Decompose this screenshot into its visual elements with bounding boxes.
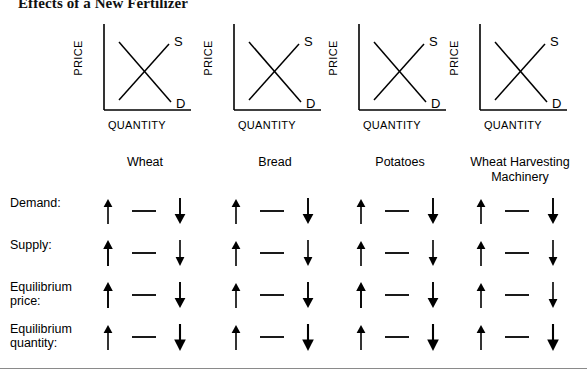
dash-icon[interactable] (384, 238, 410, 268)
column-caption-line2: Machinery (450, 170, 587, 185)
up-arrow-icon[interactable] (348, 280, 374, 310)
answer-cell-equilibrium-quantity-machinery (468, 322, 584, 356)
down-arrow-icon[interactable] (167, 196, 193, 226)
graph-x-axis-label: QUANTITY (458, 119, 568, 131)
graph-plot-area: S D (225, 22, 322, 118)
row-label-supply: Supply: (10, 238, 98, 252)
svg-text:D: D (552, 96, 561, 111)
answer-cell-equilibrium-quantity-potatoes (348, 322, 464, 356)
row-label-line1: Equilibrium (10, 280, 98, 294)
dash-icon[interactable] (504, 322, 530, 352)
dash-icon[interactable] (259, 196, 285, 226)
down-arrow-icon[interactable] (540, 238, 566, 268)
dash-icon[interactable] (384, 196, 410, 226)
up-arrow-icon[interactable] (95, 322, 121, 352)
row-label-demand: Demand: (10, 196, 98, 210)
dash-icon[interactable] (504, 280, 530, 310)
graph-y-axis-label: PRICE (72, 28, 84, 88)
down-arrow-icon[interactable] (420, 280, 446, 310)
answer-cell-supply-potatoes (348, 238, 464, 272)
down-arrow-icon[interactable] (420, 322, 446, 352)
row-label-line1: Demand: (10, 196, 98, 210)
answer-cell-supply-wheat (95, 238, 211, 272)
up-arrow-icon[interactable] (468, 196, 494, 226)
up-arrow-icon[interactable] (223, 322, 249, 352)
up-arrow-icon[interactable] (468, 280, 494, 310)
graph-x-axis-label: QUANTITY (82, 119, 192, 131)
down-arrow-icon[interactable] (295, 196, 321, 226)
dash-icon[interactable] (259, 322, 285, 352)
down-arrow-icon[interactable] (420, 196, 446, 226)
up-arrow-icon[interactable] (95, 238, 121, 268)
up-arrow-icon[interactable] (223, 280, 249, 310)
up-arrow-icon[interactable] (348, 322, 374, 352)
dash-icon[interactable] (504, 238, 530, 268)
svg-text:D: D (176, 96, 185, 111)
column-caption-row: Wheat Bread Potatoes Wheat Harvesting Ma… (0, 155, 587, 195)
answer-cell-supply-bread (223, 238, 339, 272)
down-arrow-icon[interactable] (167, 238, 193, 268)
down-arrow-icon[interactable] (540, 280, 566, 310)
up-arrow-icon[interactable] (348, 238, 374, 268)
supply-demand-graph-row: PRICE S D QUANTITY PRICE S D (0, 22, 587, 140)
down-arrow-icon[interactable] (167, 280, 193, 310)
supply-demand-graph-4: PRICE S D QUANTITY (438, 22, 568, 140)
up-arrow-icon[interactable] (95, 280, 121, 310)
answer-cell-equilibrium-price-potatoes (348, 280, 464, 314)
row-label-line2: price: (10, 294, 98, 308)
dash-icon[interactable] (131, 322, 157, 352)
row-label-equilibrium-price: Equilibrium price: (10, 280, 98, 308)
page-title: Effects of a New Fertilizer (18, 0, 188, 12)
graph-plot-area: S D (350, 22, 447, 118)
svg-text:S: S (429, 34, 438, 49)
row-label-line1: Equilibrium (10, 322, 98, 336)
down-arrow-icon[interactable] (540, 196, 566, 226)
answer-cell-demand-bread (223, 196, 339, 230)
dash-icon[interactable] (384, 322, 410, 352)
graph-plot-area: S D (95, 22, 192, 118)
svg-text:S: S (304, 34, 313, 49)
up-arrow-icon[interactable] (223, 238, 249, 268)
down-arrow-icon[interactable] (295, 280, 321, 310)
column-caption-wheat-harvesting-machinery: Wheat Harvesting Machinery (450, 155, 587, 185)
answer-cell-equilibrium-price-bread (223, 280, 339, 314)
answer-cell-equilibrium-price-machinery (468, 280, 584, 314)
column-caption-line1: Wheat Harvesting (450, 155, 587, 170)
answer-grid: Demand: (0, 196, 587, 361)
dash-icon[interactable] (384, 280, 410, 310)
dash-icon[interactable] (259, 280, 285, 310)
down-arrow-icon[interactable] (420, 238, 446, 268)
row-label-line2: quantity: (10, 336, 98, 350)
dash-icon[interactable] (259, 238, 285, 268)
graph-x-axis-label: QUANTITY (212, 119, 322, 131)
dash-icon[interactable] (131, 238, 157, 268)
answer-cell-demand-potatoes (348, 196, 464, 230)
svg-text:D: D (306, 96, 315, 111)
bottom-divider (0, 368, 587, 369)
supply-demand-graph-1: PRICE S D QUANTITY (62, 22, 192, 140)
up-arrow-icon[interactable] (468, 238, 494, 268)
up-arrow-icon[interactable] (468, 322, 494, 352)
up-arrow-icon[interactable] (223, 196, 249, 226)
table-row: Supply: (0, 238, 587, 278)
answer-cell-demand-machinery (468, 196, 584, 230)
answer-cell-demand-wheat (95, 196, 211, 230)
answer-cell-supply-machinery (468, 238, 584, 272)
down-arrow-icon[interactable] (540, 322, 566, 352)
row-label-line1: Supply: (10, 238, 98, 252)
graph-y-axis-label: PRICE (448, 28, 460, 88)
down-arrow-icon[interactable] (295, 322, 321, 352)
answer-cell-equilibrium-quantity-wheat (95, 322, 211, 356)
graph-x-axis-label: QUANTITY (337, 119, 447, 131)
row-label-equilibrium-quantity: Equilibrium quantity: (10, 322, 98, 350)
table-row: Demand: (0, 196, 587, 236)
column-caption-bread: Bread (205, 155, 345, 170)
column-caption-wheat: Wheat (75, 155, 215, 170)
dash-icon[interactable] (504, 196, 530, 226)
down-arrow-icon[interactable] (167, 322, 193, 352)
up-arrow-icon[interactable] (95, 196, 121, 226)
dash-icon[interactable] (131, 196, 157, 226)
dash-icon[interactable] (131, 280, 157, 310)
up-arrow-icon[interactable] (348, 196, 374, 226)
down-arrow-icon[interactable] (295, 238, 321, 268)
